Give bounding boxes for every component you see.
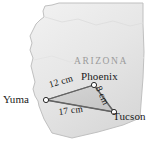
city-label-tucson: Tucson	[113, 111, 146, 122]
city-label-phoenix: Phoenix	[81, 71, 118, 82]
arizona-distance-map-figure: ARIZONA Yuma Phoenix Tucson 12 cm 8 cm 1…	[0, 0, 155, 150]
map-graphic	[0, 0, 155, 150]
city-label-yuma: Yuma	[3, 94, 29, 105]
city-marker-yuma	[43, 97, 48, 102]
state-name-label: ARIZONA	[74, 57, 128, 67]
